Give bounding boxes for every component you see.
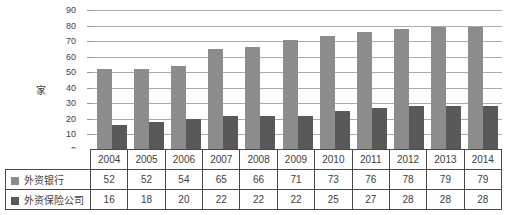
- year-cell-2014: 2014: [464, 150, 501, 170]
- bar-group-2010: [316, 10, 353, 150]
- year-cell-2004: 2004: [91, 150, 128, 170]
- bar-bank-2007: [208, 49, 223, 150]
- bar-insurance-2014: [483, 106, 498, 150]
- bar-group-2004: [93, 10, 130, 150]
- value-cell-insurance-2005: 18: [128, 190, 165, 210]
- year-cell-2006: 2006: [165, 150, 202, 170]
- year-cell-2009: 2009: [277, 150, 314, 170]
- bar-insurance-2004: [112, 125, 127, 150]
- value-cell-insurance-2009: 22: [277, 190, 314, 210]
- legend-label-insurance: 外资保险公司: [24, 195, 84, 206]
- bar-group-2006: [167, 10, 204, 150]
- bar-bank-2014: [468, 27, 483, 150]
- value-cell-bank-2009: 71: [277, 170, 314, 190]
- bar-bank-2006: [171, 66, 186, 150]
- bars-container: [93, 10, 502, 150]
- value-cell-bank-2006: 54: [165, 170, 202, 190]
- plot-area: [93, 10, 502, 150]
- table-corner-cell: [6, 150, 91, 170]
- y-axis-label-20: 20: [66, 114, 76, 123]
- y-axis-label-80: 80: [66, 21, 76, 30]
- bar-bank-2011: [357, 32, 372, 150]
- value-cell-bank-2004: 52: [91, 170, 128, 190]
- bar-bank-2009: [283, 40, 298, 150]
- year-cell-2007: 2007: [203, 150, 240, 170]
- legend-cell-insurance: 外资保险公司: [6, 190, 91, 210]
- chart: 家 0102030405060708090 200420052006200720…: [0, 0, 511, 215]
- y-axis-labels: 0102030405060708090: [40, 10, 76, 150]
- bar-bank-2010: [320, 36, 335, 150]
- table-row-insurance: 外资保险公司1618202222222527282828: [6, 190, 502, 210]
- y-axis-label-40: 40: [66, 83, 76, 92]
- value-cell-bank-2010: 73: [315, 170, 352, 190]
- value-cell-bank-2013: 79: [427, 170, 464, 190]
- data-table: 2004200520062007200820092010201120122013…: [5, 149, 502, 210]
- year-cell-2011: 2011: [352, 150, 389, 170]
- table-header-row: 2004200520062007200820092010201120122013…: [6, 150, 502, 170]
- y-axis-label-70: 70: [66, 37, 76, 46]
- bar-insurance-2005: [149, 122, 164, 150]
- value-cell-bank-2012: 78: [389, 170, 426, 190]
- legend-label-bank: 外资银行: [24, 175, 64, 186]
- bar-insurance-2011: [372, 108, 387, 150]
- bar-insurance-2009: [298, 116, 313, 150]
- value-cell-bank-2005: 52: [128, 170, 165, 190]
- bar-group-2008: [242, 10, 279, 150]
- value-cell-insurance-2008: 22: [240, 190, 277, 210]
- bar-insurance-2013: [446, 106, 461, 150]
- bar-insurance-2008: [260, 116, 275, 150]
- value-cell-insurance-2013: 28: [427, 190, 464, 210]
- value-cell-bank-2014: 79: [464, 170, 501, 190]
- y-axis-label-90: 90: [66, 6, 76, 15]
- value-cell-insurance-2006: 20: [165, 190, 202, 210]
- year-cell-2012: 2012: [389, 150, 426, 170]
- value-cell-insurance-2011: 27: [352, 190, 389, 210]
- bar-insurance-2012: [409, 106, 424, 150]
- bar-bank-2004: [97, 69, 112, 150]
- bar-insurance-2007: [223, 116, 238, 150]
- bar-group-2013: [428, 10, 465, 150]
- bar-group-2011: [353, 10, 390, 150]
- bar-bank-2013: [431, 27, 446, 150]
- y-axis-label-10: 10: [66, 130, 76, 139]
- legend-cell-bank: 外资银行: [6, 170, 91, 190]
- bar-insurance-2006: [186, 119, 201, 150]
- legend-swatch-bank: [11, 177, 19, 185]
- value-cell-insurance-2014: 28: [464, 190, 501, 210]
- bar-bank-2012: [394, 29, 409, 150]
- value-cell-insurance-2004: 16: [91, 190, 128, 210]
- value-cell-bank-2007: 65: [203, 170, 240, 190]
- value-cell-insurance-2012: 28: [389, 190, 426, 210]
- year-cell-2013: 2013: [427, 150, 464, 170]
- bar-group-2012: [391, 10, 428, 150]
- year-cell-2005: 2005: [128, 150, 165, 170]
- bar-bank-2005: [134, 69, 149, 150]
- year-cell-2008: 2008: [240, 150, 277, 170]
- bar-group-2014: [465, 10, 502, 150]
- y-axis-label-60: 60: [66, 52, 76, 61]
- y-axis-label-50: 50: [66, 68, 76, 77]
- value-cell-bank-2008: 66: [240, 170, 277, 190]
- legend-swatch-insurance: [11, 197, 19, 205]
- bar-insurance-2010: [335, 111, 350, 150]
- y-axis-label-30: 30: [66, 99, 76, 108]
- bar-group-2005: [130, 10, 167, 150]
- value-cell-insurance-2007: 22: [203, 190, 240, 210]
- value-cell-bank-2011: 76: [352, 170, 389, 190]
- table-row-bank: 外资银行5252546566717376787979: [6, 170, 502, 190]
- bar-bank-2008: [245, 47, 260, 150]
- year-cell-2010: 2010: [315, 150, 352, 170]
- value-cell-insurance-2010: 25: [315, 190, 352, 210]
- bar-group-2007: [205, 10, 242, 150]
- bar-group-2009: [279, 10, 316, 150]
